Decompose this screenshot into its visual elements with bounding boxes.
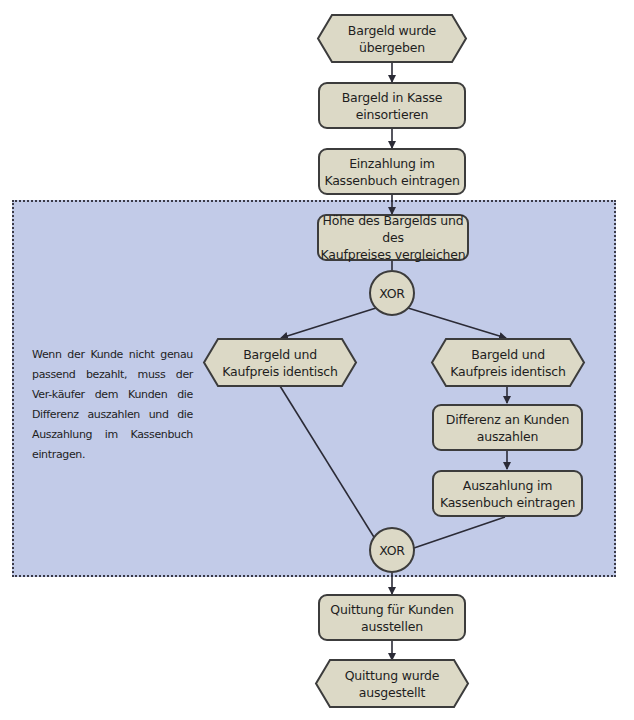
pay-difference-label: Differenz an Kunden auszahlen [446,411,569,445]
xor-join-label: XOR [379,542,405,559]
sort-cash-label: Bargeld in Kasse einsortieren [342,89,443,123]
edge-left-event-to-join [280,386,377,542]
node-event-right: Bargeld und Kaufpreis identisch [432,339,584,386]
node-event-left: Bargeld und Kaufpreis identisch [204,339,356,386]
node-record-payout: Auszahlung im Kassenbuch eintragen [432,470,583,517]
node-compare: Höhe des Bargelds und des Kaufpreises ve… [317,214,469,261]
event-right-label: Bargeld und Kaufpreis identisch [450,346,565,380]
node-start-event: Bargeld wurde übergeben [318,15,466,62]
end-event-label: Quittung wurde ausgestellt [345,667,440,701]
node-xor-split: XOR [369,270,415,316]
node-xor-join: XOR [369,527,415,573]
edge-payout-to-join [414,517,505,548]
node-sort-cash: Bargeld in Kasse einsortieren [318,82,466,129]
node-issue-receipt: Quittung für Kunden ausstellen [318,594,466,641]
node-pay-difference: Differenz an Kunden auszahlen [432,404,583,451]
annotation-text: Wenn der Kunde nicht genau passend bezah… [32,345,193,465]
issue-receipt-label: Quittung für Kunden ausstellen [330,601,453,635]
edge-xor-to-right-event [408,308,506,338]
node-end-event: Quittung wurde ausgestellt [316,660,468,707]
edge-xor-to-left-event [281,308,376,338]
record-deposit-label: Einzahlung im Kassenbuch eintragen [324,155,459,189]
xor-split-label: XOR [379,285,405,302]
record-payout-label: Auszahlung im Kassenbuch eintragen [440,477,575,511]
compare-label: Höhe des Bargelds und des Kaufpreises ve… [319,212,467,263]
event-left-label: Bargeld und Kaufpreis identisch [222,346,337,380]
node-record-deposit: Einzahlung im Kassenbuch eintragen [318,148,466,195]
start-event-label: Bargeld wurde übergeben [348,22,436,56]
